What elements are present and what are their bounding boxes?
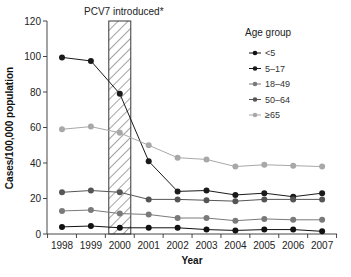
data-point	[232, 164, 238, 170]
data-point	[117, 211, 123, 217]
data-point	[261, 190, 267, 196]
data-point	[204, 227, 210, 233]
data-point	[59, 189, 65, 195]
data-point	[204, 215, 210, 221]
data-point	[117, 189, 123, 195]
legend-marker-icon	[253, 66, 258, 71]
series-18–49	[59, 207, 325, 224]
data-point	[146, 196, 152, 202]
y-tick-label: 0	[35, 229, 41, 240]
data-point	[88, 58, 94, 64]
data-point	[117, 91, 123, 97]
data-point	[319, 217, 325, 223]
data-point	[319, 164, 325, 170]
data-point	[319, 196, 325, 202]
y-tick-label: 20	[30, 193, 42, 204]
legend-marker-icon	[253, 82, 258, 87]
data-point	[146, 158, 152, 164]
data-point	[175, 196, 181, 202]
x-tick-label: 1998	[51, 240, 74, 251]
data-point	[204, 156, 210, 162]
data-point	[319, 190, 325, 196]
x-tick-label: 2005	[253, 240, 276, 251]
legend-label: 50–64	[265, 95, 290, 105]
axes: 0204060801001201998199920002001200220032…	[24, 16, 337, 252]
data-point	[204, 188, 210, 194]
data-point	[175, 188, 181, 194]
series-≥65	[59, 124, 325, 170]
series-<5	[59, 223, 325, 234]
x-tick-label: 2001	[138, 240, 161, 251]
data-point	[175, 225, 181, 231]
series-5–17	[59, 54, 325, 199]
x-tick-label: 2000	[109, 240, 132, 251]
data-point	[59, 224, 65, 230]
data-point	[146, 225, 152, 231]
data-point	[261, 227, 267, 233]
data-point	[232, 192, 238, 198]
legend-label: <5	[265, 48, 275, 58]
data-point	[59, 208, 65, 214]
data-point	[59, 126, 65, 132]
data-point	[88, 223, 94, 229]
y-tick-label: 40	[30, 158, 42, 169]
legend-marker-icon	[253, 51, 258, 56]
x-tick-label: 2004	[224, 240, 247, 251]
data-point	[88, 124, 94, 130]
data-point	[261, 162, 267, 168]
x-tick-label: 2002	[166, 240, 189, 251]
legend: Age group <55–1718–4950–64≥65	[245, 27, 292, 120]
x-axis-title: Year	[181, 255, 202, 266]
y-axis-title: Cases/100,000 population	[4, 67, 15, 189]
data-point	[319, 228, 325, 234]
data-point	[175, 155, 181, 161]
data-point	[146, 142, 152, 148]
legend-label: 18–49	[265, 79, 290, 89]
data-point	[117, 130, 123, 136]
line-chart: 0204060801001201998199920002001200220032…	[0, 0, 351, 277]
data-point	[88, 188, 94, 194]
data-point	[146, 211, 152, 217]
data-point	[290, 163, 296, 169]
data-point	[204, 197, 210, 203]
data-point	[290, 217, 296, 223]
data-point	[175, 215, 181, 221]
pcv7-introduction-marker	[109, 21, 131, 234]
pcv7-annotation: PCV7 introduced*	[84, 6, 164, 17]
legend-title: Age group	[245, 27, 292, 38]
data-point	[261, 216, 267, 222]
y-tick-label: 80	[30, 87, 42, 98]
legend-marker-icon	[253, 97, 258, 102]
data-point	[232, 218, 238, 224]
data-point	[290, 196, 296, 202]
legend-marker-icon	[253, 113, 258, 118]
legend-label: ≥65	[265, 110, 280, 120]
x-tick-label: 2003	[195, 240, 218, 251]
x-tick-label: 2006	[282, 240, 305, 251]
data-point	[59, 54, 65, 60]
data-point	[232, 198, 238, 204]
x-tick-label: 2007	[311, 240, 334, 251]
y-tick-label: 60	[30, 122, 42, 133]
y-tick-label: 100	[24, 51, 41, 62]
data-point	[88, 207, 94, 213]
data-point	[261, 196, 267, 202]
legend-label: 5–17	[265, 64, 285, 74]
x-tick-label: 1999	[80, 240, 103, 251]
data-point	[290, 227, 296, 233]
y-tick-label: 120	[24, 16, 41, 27]
data-point	[232, 227, 238, 233]
data-point	[117, 225, 123, 231]
